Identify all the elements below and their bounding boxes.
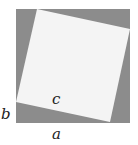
label-a: a	[52, 125, 61, 143]
label-b: b	[1, 105, 11, 123]
label-c: c	[52, 90, 61, 108]
pythagoras-diagram: c b a	[0, 0, 138, 145]
